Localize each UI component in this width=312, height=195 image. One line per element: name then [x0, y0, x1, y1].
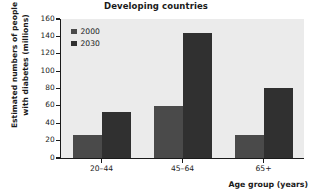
- y-tick-label: 20: [45, 135, 54, 145]
- bar-2030-45–64: [183, 33, 212, 158]
- y-tick-mark: [56, 157, 59, 158]
- legend-swatch-icon-2030: [71, 41, 77, 47]
- x-tick-label: 45–64: [143, 164, 223, 173]
- y-tick-mark: [56, 140, 59, 141]
- plot-area: 020406080100120140160 20–4445–6465+ 2000…: [60, 19, 304, 159]
- bar-2030-65+: [264, 88, 293, 158]
- chart-legend: 2000 2030: [71, 26, 100, 50]
- legend-swatch-icon-2000: [71, 29, 77, 35]
- y-tick-label: 80: [45, 83, 54, 93]
- y-tick-label: 140: [41, 31, 55, 41]
- bar-2000-65+: [235, 135, 264, 158]
- x-tick-mark: [263, 159, 264, 162]
- y-tick-label: 40: [45, 118, 54, 128]
- x-tick-mark: [182, 159, 183, 162]
- y-tick-mark: [56, 88, 59, 89]
- y-tick-label: 120: [41, 48, 55, 58]
- y-tick-mark: [56, 53, 59, 54]
- y-tick-label: 100: [41, 66, 55, 76]
- bar-2030-20–44: [102, 112, 131, 158]
- x-tick-label: 20–44: [62, 164, 142, 173]
- y-axis-title: Estimated numbers of people with diabete…: [10, 0, 36, 135]
- y-tick-mark: [56, 18, 59, 19]
- chart-title: Developing countries: [0, 1, 312, 11]
- legend-item-2030: 2030: [71, 38, 100, 49]
- x-tick-mark: [101, 159, 102, 162]
- x-axis-title: Age group (years): [229, 180, 309, 189]
- y-tick-mark: [56, 123, 59, 124]
- bar-2000-45–64: [154, 106, 183, 158]
- y-tick-label: 160: [41, 14, 55, 24]
- y-tick-mark: [56, 36, 59, 37]
- y-tick-label: 0: [50, 153, 55, 163]
- legend-label-2000: 2000: [81, 27, 100, 36]
- legend-label-2030: 2030: [81, 39, 100, 48]
- x-tick-label: 65+: [224, 164, 304, 173]
- bar-chart-figure: Developing countries Estimated numbers o…: [0, 0, 312, 195]
- y-tick-mark: [56, 105, 59, 106]
- bar-2000-20–44: [73, 135, 102, 158]
- legend-item-2000: 2000: [71, 26, 100, 37]
- y-tick-label: 60: [45, 100, 54, 110]
- y-tick-mark: [56, 71, 59, 72]
